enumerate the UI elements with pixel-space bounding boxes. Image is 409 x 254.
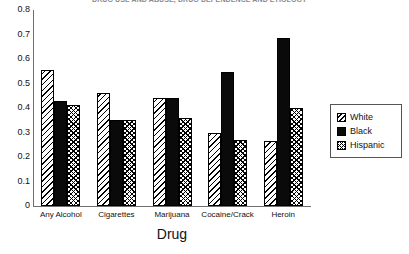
bar-white bbox=[264, 141, 277, 206]
y-tick-label: 0.3 bbox=[4, 128, 30, 137]
bar-black bbox=[221, 72, 234, 206]
bar-hispanic bbox=[290, 108, 303, 206]
legend-swatch-hispanic-icon bbox=[337, 141, 346, 150]
bar-black bbox=[110, 120, 123, 206]
bar-hispanic bbox=[123, 120, 136, 206]
legend-label-white: White bbox=[350, 112, 373, 122]
y-tick-label: 0.7 bbox=[4, 30, 30, 39]
bar-group bbox=[97, 10, 136, 206]
y-tick-label: 0.8 bbox=[4, 5, 30, 14]
legend-swatch-white-icon bbox=[337, 113, 346, 122]
bar-white bbox=[153, 98, 166, 206]
chart-legend: White Black Hispanic bbox=[330, 104, 402, 158]
legend-item-hispanic: Hispanic bbox=[337, 138, 397, 152]
y-tick-label: 0.6 bbox=[4, 54, 30, 63]
y-tick-label: 0 bbox=[4, 201, 30, 210]
bar-white bbox=[208, 133, 221, 207]
legend-item-white: White bbox=[337, 110, 397, 124]
bar-hispanic bbox=[67, 105, 80, 206]
bar-white bbox=[41, 70, 54, 206]
legend-swatch-black-icon bbox=[337, 127, 346, 136]
bars-layer bbox=[33, 10, 311, 206]
bar-hispanic bbox=[234, 140, 247, 206]
bar-chart: 0.80.70.60.50.40.30.20.10 Any AlcoholCig… bbox=[0, 0, 409, 254]
x-axis-title: Drug bbox=[33, 226, 311, 242]
bar-black bbox=[166, 98, 179, 206]
y-tick-label: 0.2 bbox=[4, 152, 30, 161]
y-tick-label: 0.4 bbox=[4, 103, 30, 112]
bar-group bbox=[264, 10, 303, 206]
bar-black bbox=[54, 101, 67, 206]
bar-black bbox=[277, 38, 290, 206]
bar-hispanic bbox=[179, 118, 192, 206]
y-tick-label: 0.5 bbox=[4, 79, 30, 88]
bar-group bbox=[153, 10, 192, 206]
x-tick-label: Heroin bbox=[247, 210, 319, 220]
x-axis-line bbox=[33, 206, 311, 207]
bar-group bbox=[208, 10, 247, 206]
legend-label-black: Black bbox=[350, 126, 372, 136]
bar-white bbox=[97, 93, 110, 206]
bar-group bbox=[41, 10, 80, 206]
legend-item-black: Black bbox=[337, 124, 397, 138]
legend-label-hispanic: Hispanic bbox=[350, 140, 385, 150]
x-axis-category-labels: Any AlcoholCigarettesMarijuanaCocaine/Cr… bbox=[33, 210, 311, 222]
y-tick-label: 0.1 bbox=[4, 177, 30, 186]
